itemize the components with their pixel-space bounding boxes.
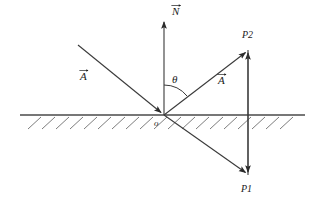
point-p1-label: P1 — [241, 184, 252, 194]
angle-theta-label: θ — [172, 74, 177, 85]
angle-arc — [164, 85, 187, 96]
reflection-diagram: N A A θ o P2 P1 — [0, 0, 316, 209]
normal-vector-label-text: N — [172, 5, 179, 17]
origin-label: o — [154, 119, 159, 128]
reflected-vector-label: A — [218, 75, 225, 86]
transmitted-ray — [164, 115, 246, 173]
diagram-canvas — [0, 0, 316, 209]
incident-vector-label: A — [80, 71, 87, 82]
incident-vector-label-text: A — [80, 70, 87, 82]
normal-vector-label: N — [172, 6, 179, 17]
surface-hatching — [28, 117, 293, 129]
incident-ray — [78, 45, 161, 113]
point-p2-label: P2 — [242, 30, 253, 40]
reflected-vector-label-text: A — [218, 74, 225, 86]
